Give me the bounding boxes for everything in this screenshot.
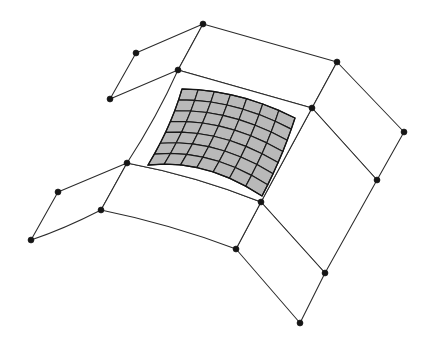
control-node: n-center-bottom	[258, 199, 264, 205]
control-node: n-right-upper	[334, 59, 340, 65]
control-node: n-left-upper	[107, 96, 113, 102]
surface-patch-mesh-svg: Quadrilateral surface patch mesh with lo…	[0, 0, 424, 337]
control-node: n-bottom-apex	[297, 320, 303, 326]
control-node: n-apex-top	[200, 21, 206, 27]
diagram-root: Quadrilateral surface patch mesh with lo…	[0, 0, 424, 337]
control-node: n-center-left	[124, 160, 130, 166]
control-node: n-left-lower	[55, 189, 61, 195]
control-node: n-far-right	[401, 129, 407, 135]
control-node: n-center-top	[175, 67, 181, 73]
control-node: n-right-lower	[374, 177, 380, 183]
control-node: n-right-bottom	[322, 270, 328, 276]
control-node: n-lower-left-inner	[98, 207, 104, 213]
control-node: n-center-right	[309, 105, 315, 111]
control-node: n-lower-inner	[233, 246, 239, 252]
control-node: n-far-left-bottom	[28, 237, 34, 243]
control-node: n-upper-left	[133, 50, 139, 56]
